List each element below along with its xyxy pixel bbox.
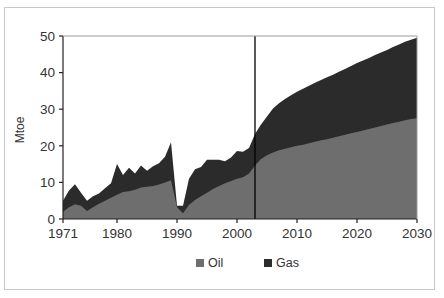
x-tick-label: 1990 bbox=[162, 226, 192, 241]
y-tick-label: 0 bbox=[47, 212, 55, 227]
y-axis-title: Mtoe bbox=[13, 116, 27, 143]
x-tick-label: 2020 bbox=[342, 226, 372, 241]
y-tick-label: 10 bbox=[40, 175, 55, 190]
legend-label-oil: Oil bbox=[208, 256, 223, 270]
chart-legend: OilGas bbox=[196, 256, 299, 270]
x-tick-label: 1980 bbox=[102, 226, 132, 241]
legend-label-gas: Gas bbox=[276, 256, 299, 270]
x-tick-label: 2010 bbox=[282, 226, 312, 241]
legend-swatch-gas bbox=[264, 259, 272, 267]
y-axis-ticks: 01020304050 bbox=[40, 29, 63, 227]
figure-root: 01020304050 1971198019902000201020202030… bbox=[0, 0, 444, 298]
y-tick-label: 40 bbox=[40, 65, 55, 80]
x-axis-ticks: 1971198019902000201020202030 bbox=[48, 219, 432, 241]
x-tick-label: 1971 bbox=[48, 226, 78, 241]
y-tick-label: 50 bbox=[40, 29, 55, 44]
legend-swatch-oil bbox=[196, 259, 204, 267]
x-tick-label: 2030 bbox=[402, 226, 432, 241]
x-tick-label: 2000 bbox=[222, 226, 252, 241]
y-tick-label: 30 bbox=[40, 102, 55, 117]
stacked-area-chart: 01020304050 1971198019902000201020202030… bbox=[0, 0, 444, 298]
y-tick-label: 20 bbox=[40, 139, 55, 154]
